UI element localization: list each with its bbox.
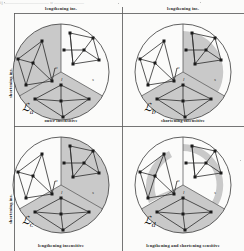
scan-speck (240, 160, 241, 161)
panel-c-sector-label-s: s (92, 190, 94, 195)
panel-a-label-L: ℒ (22, 101, 30, 114)
caption-top-left: lengthening ins. (0, 6, 122, 11)
figure-page: ij ————————— o —————— lengthening ins. l… (0, 0, 244, 251)
panel-d-label-L: ℒ (144, 214, 152, 227)
panel-b-label-sub: b (152, 108, 156, 116)
panel-d-label-sub: d (152, 221, 156, 229)
scan-speck (118, 3, 119, 4)
panel-c: o l s ℒc (0, 126, 122, 251)
caption-top-left-text: lengthening ins. (45, 6, 77, 11)
scan-speck (4, 2, 5, 3)
panel-c-label-L: ℒ (22, 214, 30, 227)
residue-text: ij ————————— o —————— (0, 0, 84, 5)
panel-a: o l s ℒa (0, 13, 122, 138)
panel-a-sector-label-s: s (92, 77, 94, 82)
panel-b-sector-label-o: o (177, 65, 180, 70)
panel-c-label-sub: c (30, 221, 33, 229)
panel-a-diagram: o l s (0, 13, 122, 138)
panel-c-sector-label-o: o (55, 178, 58, 183)
panel-b-label-L: ℒ (144, 101, 152, 114)
caption-top-right: lengthening ins. (122, 6, 244, 11)
panel-d-label: ℒd (144, 214, 156, 229)
panel-a-label-sub: a (30, 108, 34, 116)
panel-d-diagram: o l s (122, 126, 244, 251)
panel-c-label: ℒc (22, 214, 33, 229)
caption-top-right-text: lengthening ins. (167, 6, 199, 11)
panel-b-sector-label-s: s (214, 77, 216, 82)
panel-b-graph-left (140, 41, 177, 85)
panel-a-label: ℒa (22, 101, 33, 116)
panel-b: o l s ℒb (122, 13, 244, 138)
panel-b-diagram: o l s (122, 13, 244, 138)
panel-d: o l s ℒd (122, 126, 244, 251)
panel-d-sector-label-s: s (214, 190, 216, 195)
panel-c-graph-left (18, 154, 55, 198)
panel-c-diagram: o l s (0, 126, 122, 251)
panel-b-label: ℒb (144, 101, 156, 116)
panel-d-sector-label-o: o (177, 178, 180, 183)
scan-speck (200, 2, 201, 3)
